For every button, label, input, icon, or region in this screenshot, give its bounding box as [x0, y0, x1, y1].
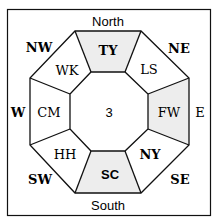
label-south: South: [91, 198, 125, 213]
label-northwest: NW: [26, 40, 53, 55]
sector-northeast-label: LS: [140, 62, 158, 77]
label-west: W: [10, 105, 26, 120]
sector-southwest-label: HH: [54, 147, 77, 162]
label-northeast: NE: [168, 41, 190, 56]
label-southwest: SW: [28, 172, 52, 187]
label-southeast: SE: [170, 172, 189, 187]
sector-east-label: FW: [158, 105, 181, 120]
sector-west-label: CM: [37, 105, 60, 120]
center-number: 3: [105, 105, 112, 120]
sector-south-label: SC: [101, 167, 120, 182]
bagua-diagram: North South E W NE NW SE SW TY LS FW NY …: [0, 0, 214, 221]
label-north: North: [92, 14, 124, 29]
sector-southeast-label: NY: [139, 147, 161, 162]
label-east: E: [195, 105, 205, 120]
sector-northwest-label: WK: [55, 63, 78, 78]
sector-north-label: TY: [99, 43, 119, 58]
